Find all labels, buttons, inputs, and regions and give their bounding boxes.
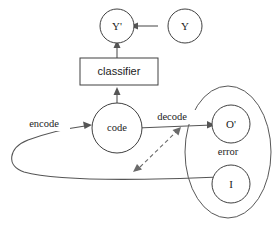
diagram-svg: error Y' Y classifier code O' [0, 0, 278, 228]
node-y-pred[interactable]: Y' [100, 9, 134, 43]
node-code-label: code [107, 122, 127, 133]
error-group-label: error [218, 146, 239, 157]
node-classifier-label: classifier [98, 65, 141, 77]
edge-label-encode-group: encode [18, 117, 70, 131]
node-y-true[interactable]: Y [168, 9, 202, 43]
node-output[interactable]: O' [212, 105, 250, 143]
node-input[interactable]: I [212, 165, 250, 203]
edge-label-decode: decode [157, 111, 187, 122]
node-y-true-label: Y [181, 20, 189, 32]
node-classifier[interactable]: classifier [80, 58, 158, 85]
node-output-label: O' [226, 118, 236, 130]
edge-label-encode: encode [29, 118, 59, 129]
node-y-pred-label: Y' [112, 20, 122, 32]
node-code[interactable]: code [92, 103, 142, 153]
diagram-canvas: error Y' Y classifier code O' [0, 0, 278, 228]
node-input-label: I [229, 178, 233, 190]
edge-label-decode-group: decode [146, 110, 198, 124]
